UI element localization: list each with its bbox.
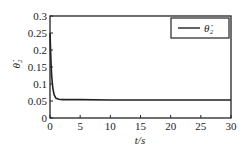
legend-label: θ̇₂ — [204, 22, 213, 34]
x-tick-label: 25 — [195, 120, 207, 132]
y-tick-label: 0.2 — [33, 44, 47, 56]
x-tick-label: 0 — [47, 120, 53, 132]
series-line — [50, 33, 231, 100]
line-chart: 00.050.10.150.20.250.3 051015202530 t/s … — [0, 0, 242, 148]
y-axis-ticks: 00.050.10.150.20.250.3 — [28, 10, 53, 124]
x-tick-label: 10 — [105, 120, 117, 132]
y-tick-label: 0.1 — [33, 78, 47, 90]
x-tick-label: 5 — [77, 120, 83, 132]
x-tick-label: 15 — [135, 120, 147, 132]
x-tick-label: 30 — [226, 120, 238, 132]
y-axis-label: θ̇₂ — [10, 59, 22, 68]
y-tick-label: 0.3 — [33, 10, 47, 22]
y-tick-label: 0.05 — [28, 95, 48, 107]
y-tick-label: 0.25 — [28, 27, 48, 39]
legend: θ̇₂ — [171, 18, 229, 38]
x-axis-label: t/s — [135, 134, 145, 146]
y-tick-label: 0.15 — [28, 61, 48, 73]
x-tick-label: 20 — [165, 120, 177, 132]
